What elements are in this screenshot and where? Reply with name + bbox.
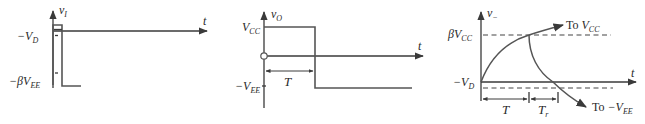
level-label-minus-vee: −VEE	[235, 79, 260, 95]
interval-tr-label: Tr	[538, 102, 549, 119]
panel-inverting-input-voltage: v− t T Tr βVCC −VD To VCC To −VEE	[447, 6, 636, 119]
input-pulse-waveform	[53, 25, 81, 86]
level-label-minus-vd: −VD	[453, 75, 474, 91]
panel-input-voltage: vI t −VD −βVEE	[9, 3, 207, 90]
interval-t-label: T	[284, 74, 292, 89]
level-label-minus-beta-vee: −βVEE	[9, 74, 40, 90]
level-label-minus-vd: −VD	[17, 29, 38, 45]
y-axis-label: vO	[271, 7, 282, 23]
x-axis-label: t	[203, 14, 207, 28]
interval-t-label: T	[502, 102, 510, 117]
x-axis-label: t	[631, 66, 635, 80]
y-axis-label: v−	[487, 6, 498, 22]
curve-label-to-vcc: To VCC	[566, 18, 600, 34]
level-label-beta-vcc: βVCC	[447, 27, 473, 43]
origin-open-circle	[261, 53, 267, 59]
waveform-figure: vI t −VD −βVEE vO t T VCC −VEE v− t	[0, 0, 645, 124]
level-label-vcc: VCC	[242, 20, 261, 36]
x-axis-label: t	[418, 39, 422, 53]
y-axis-label: vI	[59, 3, 67, 19]
panel-output-voltage: vO t T VCC −VEE	[235, 7, 423, 108]
curve-label-to-minus-vee: To −VEE	[592, 100, 633, 116]
charging-curve	[481, 25, 563, 82]
